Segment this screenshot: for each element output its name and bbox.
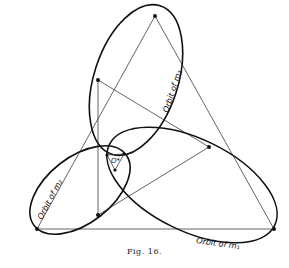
point-center-a xyxy=(105,153,108,156)
point-inner-right xyxy=(207,145,211,149)
point-center-b xyxy=(122,152,125,155)
point-inner-lower xyxy=(96,213,100,217)
point-inner-upper xyxy=(96,78,100,82)
center-label: O* xyxy=(111,157,121,165)
orbit-diagram: O* Orbit of m₃ Orbit of m₂ Orbit of m₁ xyxy=(0,0,289,268)
orbit-m3-ellipse xyxy=(72,0,200,167)
label-orbit-m3: Orbit of m₃ xyxy=(161,69,183,113)
orbit-m2-ellipse xyxy=(14,128,146,251)
figure-caption: Fig. 16. xyxy=(0,247,289,256)
point-left-vertex xyxy=(35,227,39,231)
point-center-c xyxy=(113,168,116,171)
orbit-m1-ellipse xyxy=(89,103,289,266)
point-top-vertex xyxy=(153,14,157,18)
triangle-edge-right xyxy=(155,16,274,229)
point-right-vertex xyxy=(272,227,276,231)
